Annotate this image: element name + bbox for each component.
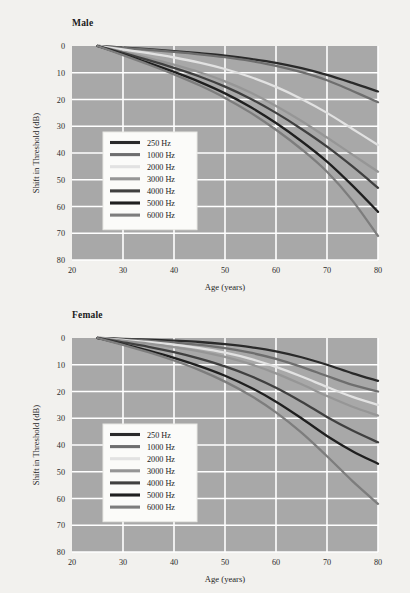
male-y-tick: 40 bbox=[57, 149, 65, 158]
male-y-tick: 0 bbox=[61, 42, 65, 51]
female-y-axis-title: Shift in Threshold (dB) bbox=[31, 405, 41, 485]
female-legend-label: 250 Hz bbox=[147, 431, 171, 440]
female-legend-label: 1000 Hz bbox=[147, 443, 175, 452]
male-x-tick: 80 bbox=[374, 266, 382, 275]
male-legend-label: 250 Hz bbox=[147, 139, 171, 148]
male-y-tick: 70 bbox=[57, 229, 65, 238]
female-legend-label: 4000 Hz bbox=[147, 479, 175, 488]
male-y-tick: 10 bbox=[57, 69, 65, 78]
male-legend-label: 1000 Hz bbox=[147, 151, 175, 160]
chart-plot-female: 20304050607080Age (years)010203040506070… bbox=[0, 296, 410, 589]
female-legend-label: 3000 Hz bbox=[147, 467, 175, 476]
male-x-tick: 40 bbox=[170, 266, 178, 275]
male-x-axis: 20304050607080Age (years) bbox=[68, 266, 382, 292]
female-y-tick: 20 bbox=[57, 388, 65, 397]
male-legend-label: 6000 Hz bbox=[147, 211, 175, 220]
female-y-axis: 01020304050607080Shift in Threshold (dB) bbox=[31, 334, 65, 557]
female-x-tick: 80 bbox=[374, 558, 382, 567]
female-legend-label: 5000 Hz bbox=[147, 491, 175, 500]
male-x-tick: 60 bbox=[272, 266, 280, 275]
male-y-tick: 80 bbox=[57, 256, 65, 265]
female-x-axis-title: Age (years) bbox=[205, 574, 245, 584]
female-x-tick: 30 bbox=[119, 558, 127, 567]
chart-panel-male: Male 20304050607080Age (years)0102030405… bbox=[0, 4, 410, 294]
female-y-tick: 80 bbox=[57, 548, 65, 557]
male-y-axis: 01020304050607080Shift in Threshold (dB) bbox=[31, 42, 65, 265]
female-legend-label: 2000 Hz bbox=[147, 455, 175, 464]
male-legend-label: 3000 Hz bbox=[147, 175, 175, 184]
male-legend-label: 5000 Hz bbox=[147, 199, 175, 208]
male-legend-label: 2000 Hz bbox=[147, 163, 175, 172]
male-x-tick: 50 bbox=[221, 266, 229, 275]
male-y-tick: 30 bbox=[57, 122, 65, 131]
male-y-axis-title: Shift in Threshold (dB) bbox=[31, 113, 41, 193]
female-y-tick: 30 bbox=[57, 414, 65, 423]
female-y-tick: 0 bbox=[61, 334, 65, 343]
male-x-axis-title: Age (years) bbox=[205, 282, 245, 292]
female-x-tick: 20 bbox=[68, 558, 76, 567]
female-x-tick: 70 bbox=[323, 558, 331, 567]
female-y-tick: 70 bbox=[57, 521, 65, 530]
figure-page: Male 20304050607080Age (years)0102030405… bbox=[0, 0, 410, 593]
male-x-tick: 70 bbox=[323, 266, 331, 275]
female-legend: 250 Hz1000 Hz2000 Hz3000 Hz4000 Hz5000 H… bbox=[103, 424, 197, 522]
female-y-tick: 60 bbox=[57, 495, 65, 504]
male-y-tick: 20 bbox=[57, 96, 65, 105]
chart-panel-female: Female 20304050607080Age (years)01020304… bbox=[0, 296, 410, 589]
female-x-axis: 20304050607080Age (years) bbox=[68, 558, 382, 584]
female-y-tick: 50 bbox=[57, 468, 65, 477]
male-legend-label: 4000 Hz bbox=[147, 187, 175, 196]
male-x-tick: 30 bbox=[119, 266, 127, 275]
male-x-tick: 20 bbox=[68, 266, 76, 275]
female-y-tick: 40 bbox=[57, 441, 65, 450]
male-y-tick: 50 bbox=[57, 176, 65, 185]
male-y-tick: 60 bbox=[57, 203, 65, 212]
female-y-tick: 10 bbox=[57, 361, 65, 370]
chart-plot-male: 20304050607080Age (years)010203040506070… bbox=[0, 4, 410, 294]
male-legend: 250 Hz1000 Hz2000 Hz3000 Hz4000 Hz5000 H… bbox=[103, 132, 197, 230]
female-x-tick: 50 bbox=[221, 558, 229, 567]
female-x-tick: 60 bbox=[272, 558, 280, 567]
female-x-tick: 40 bbox=[170, 558, 178, 567]
female-legend-label: 6000 Hz bbox=[147, 503, 175, 512]
